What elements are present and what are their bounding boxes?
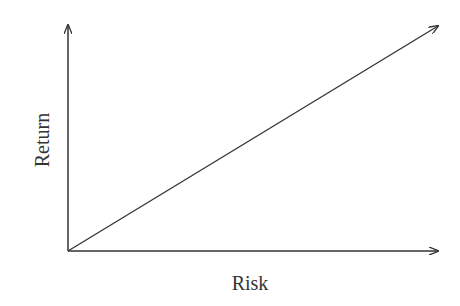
- risk-return-line: [68, 26, 438, 251]
- y-axis-label: Return: [31, 113, 54, 167]
- x-axis-label: Risk: [200, 272, 300, 295]
- risk-return-chart: [0, 0, 460, 306]
